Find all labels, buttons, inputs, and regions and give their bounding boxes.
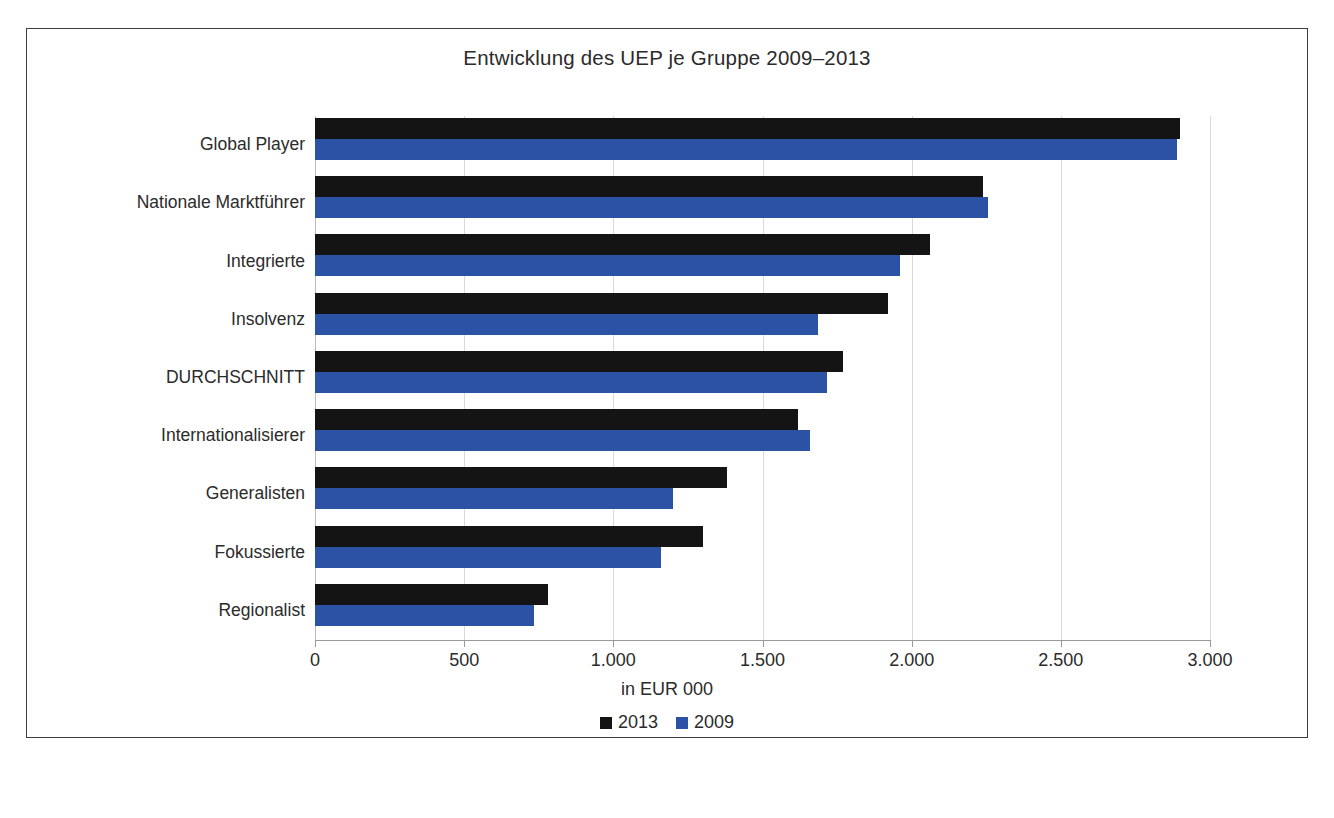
bar-2013 bbox=[315, 176, 983, 197]
bar-2009 bbox=[315, 314, 818, 335]
bar-2009 bbox=[315, 255, 900, 276]
category-label: Internationalisierer bbox=[25, 425, 305, 446]
bar-2009 bbox=[315, 430, 810, 451]
legend-swatch-icon bbox=[600, 717, 612, 729]
bar-2013 bbox=[315, 584, 548, 605]
bar-group bbox=[315, 116, 1210, 174]
legend-label: 2009 bbox=[694, 712, 734, 733]
legend-item[interactable]: 2013 bbox=[600, 712, 658, 733]
bar-group bbox=[315, 465, 1210, 523]
bar-group bbox=[315, 524, 1210, 582]
category-label: Integrierte bbox=[25, 251, 305, 272]
x-tick-label: 1.500 bbox=[703, 650, 823, 671]
x-tick-label: 3.000 bbox=[1150, 650, 1270, 671]
category-label: Regionalist bbox=[25, 600, 305, 621]
chart-legend: 20132009 bbox=[0, 712, 1334, 733]
bar-2013 bbox=[315, 293, 888, 314]
bar-2009 bbox=[315, 605, 534, 626]
category-label: Insolvenz bbox=[25, 309, 305, 330]
x-tick-1500 bbox=[763, 640, 764, 647]
x-tick-label: 0 bbox=[255, 650, 375, 671]
category-label: DURCHSCHNITT bbox=[25, 367, 305, 388]
x-tick-label: 2.500 bbox=[1001, 650, 1121, 671]
x-tick-label: 1.000 bbox=[553, 650, 673, 671]
bar-group bbox=[315, 582, 1210, 640]
bar-group bbox=[315, 291, 1210, 349]
x-tick-3000 bbox=[1210, 640, 1211, 647]
legend-label: 2013 bbox=[618, 712, 658, 733]
gridline-3000 bbox=[1210, 116, 1211, 640]
x-tick-2000 bbox=[912, 640, 913, 647]
bar-group bbox=[315, 174, 1210, 232]
bar-2013 bbox=[315, 118, 1180, 139]
x-tick-2500 bbox=[1061, 640, 1062, 647]
bar-2009 bbox=[315, 372, 827, 393]
bar-2013 bbox=[315, 409, 798, 430]
plot-area bbox=[315, 116, 1210, 640]
legend-swatch-icon bbox=[676, 717, 688, 729]
category-label: Fokussierte bbox=[25, 542, 305, 563]
x-tick-1000 bbox=[613, 640, 614, 647]
x-tick-0 bbox=[315, 640, 316, 647]
bar-2013 bbox=[315, 526, 703, 547]
x-tick-label: 2.000 bbox=[852, 650, 972, 671]
chart-title: Entwicklung des UEP je Gruppe 2009–2013 bbox=[0, 46, 1334, 70]
bar-2013 bbox=[315, 467, 727, 488]
category-label: Nationale Marktführer bbox=[25, 192, 305, 213]
bar-group bbox=[315, 232, 1210, 290]
bar-2013 bbox=[315, 351, 843, 372]
x-tick-500 bbox=[464, 640, 465, 647]
bar-2013 bbox=[315, 234, 930, 255]
category-label: Global Player bbox=[25, 134, 305, 155]
x-axis-title: in EUR 000 bbox=[0, 679, 1334, 700]
bar-2009 bbox=[315, 488, 673, 509]
bar-2009 bbox=[315, 547, 661, 568]
bar-2009 bbox=[315, 139, 1177, 160]
legend-item[interactable]: 2009 bbox=[676, 712, 734, 733]
x-tick-label: 500 bbox=[404, 650, 524, 671]
bar-2009 bbox=[315, 197, 988, 218]
bar-group bbox=[315, 407, 1210, 465]
category-label: Generalisten bbox=[25, 483, 305, 504]
bar-group bbox=[315, 349, 1210, 407]
y-axis-category-labels: Global PlayerNationale MarktführerIntegr… bbox=[22, 116, 305, 640]
chart-figure: Entwicklung des UEP je Gruppe 2009–2013 … bbox=[0, 0, 1334, 818]
